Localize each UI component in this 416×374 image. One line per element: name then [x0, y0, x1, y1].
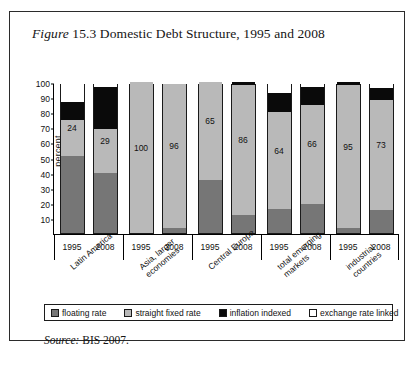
- y-tick-label-100: 100: [36, 79, 50, 89]
- segment-inflation: [301, 87, 324, 105]
- y-tick-label-30: 30: [41, 185, 50, 195]
- legend-swatch-icon: [219, 309, 227, 317]
- legend-item-straight-fixed-rate[interactable]: straight fixed rate: [124, 308, 200, 318]
- figure-number: 15.3: [72, 26, 96, 41]
- y-tick-mark-30: [51, 189, 54, 190]
- bar-value-label: 64: [268, 146, 291, 156]
- segment-fx: [94, 82, 117, 87]
- segment-fixed: [199, 82, 222, 180]
- segment-inflation: [268, 93, 291, 113]
- y-tick-label-60: 60: [41, 139, 50, 149]
- bar-industrial-countries-2008[interactable]: 73: [369, 84, 394, 234]
- bar-value-label: 96: [163, 141, 186, 151]
- segment-floating: [94, 173, 117, 233]
- bar-latin-america-1995[interactable]: 24: [60, 84, 85, 234]
- legend-label: straight fixed rate: [135, 308, 200, 318]
- legend-item-inflation-indexed[interactable]: inflation indexed: [219, 308, 291, 318]
- segment-floating: [301, 204, 324, 233]
- bar-value-label: 24: [61, 123, 84, 133]
- segment-floating: [370, 210, 393, 233]
- source-text: BIS 2007.: [82, 334, 129, 346]
- bar-latin-america-2008[interactable]: 29: [93, 84, 118, 234]
- segment-floating: [337, 228, 360, 233]
- bar-value-label: 86: [232, 135, 255, 145]
- y-tick-mark-60: [51, 144, 54, 145]
- segment-inflation: [370, 88, 393, 100]
- bar-central-europe-1995[interactable]: 65: [198, 84, 223, 234]
- bar-industrial-countries-1995[interactable]: 95: [336, 84, 361, 234]
- y-tick-mark-50: [51, 159, 54, 160]
- segment-inflation: [94, 87, 117, 129]
- segment-fixed: [130, 82, 153, 233]
- bar-total-emerging-markets-2008[interactable]: 66: [300, 84, 325, 234]
- legend-swatch-icon: [309, 309, 317, 317]
- y-tick-label-20: 20: [41, 200, 50, 210]
- segment-floating: [163, 228, 186, 233]
- segment-fx: [61, 82, 84, 102]
- y-tick-mark-90: [51, 99, 54, 100]
- y-tick-mark-80: [51, 114, 54, 115]
- segment-floating: [199, 180, 222, 233]
- category-label-total-emerging-markets: total emergingmarkets: [275, 229, 329, 279]
- bar-central-europe-2008[interactable]: 86: [231, 84, 256, 234]
- bar-value-label: 65: [199, 116, 222, 126]
- segment-fixed: [370, 100, 393, 210]
- group-separator: [330, 234, 331, 260]
- y-tick-label-50: 50: [41, 155, 50, 165]
- group-separator: [123, 234, 124, 260]
- segment-inflation: [337, 82, 360, 85]
- source-label: Source:: [44, 334, 79, 346]
- segment-fx: [268, 82, 291, 93]
- segment-fixed: [232, 85, 255, 215]
- segment-fx: [301, 82, 324, 87]
- legend-label: inflation indexed: [230, 308, 291, 318]
- segment-floating: [61, 156, 84, 233]
- source-note: Source: BIS 2007.: [44, 334, 129, 346]
- legend-label: floating rate: [62, 308, 106, 318]
- segment-fx: [163, 82, 186, 84]
- group-separator: [192, 234, 193, 260]
- segment-fixed: [163, 84, 186, 229]
- y-tick-mark-40: [51, 174, 54, 175]
- figure-title: Figure 15.3 Domestic Debt Structure, 199…: [32, 26, 392, 42]
- group-separator: [54, 234, 55, 260]
- legend-item-floating-rate[interactable]: floating rate: [51, 308, 106, 318]
- y-tick-mark-70: [51, 129, 54, 130]
- y-tick-label-90: 90: [41, 94, 50, 104]
- y-tick-label-10: 10: [41, 215, 50, 225]
- y-tick-label-80: 80: [41, 109, 50, 119]
- bar-value-label: 100: [130, 143, 153, 153]
- y-tick-mark-20: [51, 204, 54, 205]
- bar-value-label: 29: [94, 136, 117, 146]
- legend-swatch-icon: [51, 309, 59, 317]
- figure-title-text: Domestic Debt Structure, 1995 and 2008: [100, 26, 325, 41]
- legend-swatch-icon: [124, 309, 132, 317]
- chart-legend: floating ratestraight fixed rateinflatio…: [44, 304, 393, 321]
- bar-value-label: 66: [301, 139, 324, 149]
- segment-fixed: [337, 85, 360, 228]
- segment-fx: [370, 82, 393, 88]
- segment-fixed: [301, 105, 324, 205]
- bar-asia-larger-economies-1995[interactable]: 100: [129, 84, 154, 234]
- segment-inflation: [61, 102, 84, 120]
- group-separator: [261, 234, 262, 260]
- figure-label: Figure: [32, 26, 69, 41]
- y-tick-mark-10: [51, 219, 54, 220]
- legend-item-exchange-rate-linked[interactable]: exchange rate linked: [309, 308, 398, 318]
- bar-asia-larger-economies-2008[interactable]: 96: [162, 84, 187, 234]
- y-tick-label-70: 70: [41, 124, 50, 134]
- bar-value-label: 73: [370, 140, 393, 150]
- segment-fixed: [268, 112, 291, 209]
- group-separator: [398, 234, 399, 260]
- legend-label: exchange rate linked: [320, 308, 398, 318]
- segment-inflation: [232, 82, 255, 85]
- bar-total-emerging-markets-1995[interactable]: 64: [267, 84, 292, 234]
- bar-value-label: 95: [337, 142, 360, 152]
- figure-frame: Figure 15.3 Domestic Debt Structure, 199…: [9, 11, 405, 341]
- y-tick-label-40: 40: [41, 170, 50, 180]
- segment-floating: [268, 209, 291, 233]
- chart-plot-area: percent 102030405060708090100 2429100966…: [53, 84, 398, 235]
- y-tick-mark-100: [51, 84, 54, 85]
